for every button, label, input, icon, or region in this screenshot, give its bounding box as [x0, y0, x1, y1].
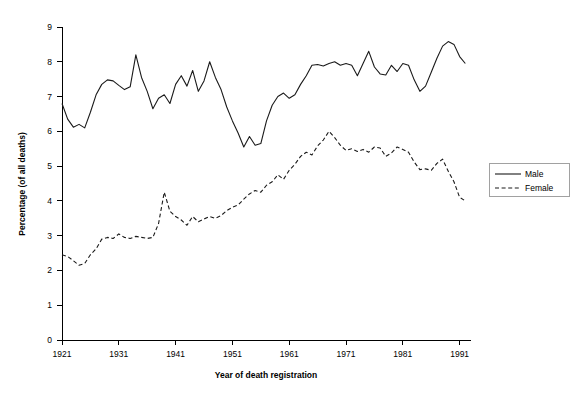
- x-tick-label: 1931: [109, 349, 128, 359]
- y-tick-collection: 0123456789: [47, 22, 62, 345]
- x-tick-label: 1921: [53, 349, 72, 359]
- y-tick-label: 7: [47, 92, 52, 102]
- y-tick-label: 2: [47, 265, 52, 275]
- y-tick-label: 4: [47, 196, 52, 206]
- y-tick-label: 3: [47, 231, 52, 241]
- data-series-group: [62, 42, 465, 266]
- y-tick-label: 8: [47, 57, 52, 67]
- x-tick-label: 1961: [280, 349, 299, 359]
- x-tick-label: 1971: [337, 349, 356, 359]
- x-axis-title: Year of death registration: [215, 370, 318, 380]
- y-tick-label: 9: [47, 22, 52, 32]
- x-tick-label: 1991: [450, 349, 469, 359]
- x-tick-label: 1981: [393, 349, 412, 359]
- x-tick-label: 1951: [223, 349, 242, 359]
- x-tick-collection: 19211931194119511961197119811991: [53, 340, 470, 359]
- series-line-male: [62, 42, 465, 147]
- y-tick-label: 1: [47, 300, 52, 310]
- y-tick-label: 0: [47, 335, 52, 345]
- legend-label-female: Female: [525, 183, 554, 193]
- chart-figure: 0123456789 Percentage (of all deaths) 19…: [0, 0, 574, 394]
- chart-legend: MaleFemale: [489, 163, 569, 196]
- series-line-female: [62, 131, 465, 265]
- x-axis-group: 19211931194119511961197119811991 Year of…: [53, 340, 471, 380]
- line-chart-plot: 0123456789 Percentage (of all deaths) 19…: [0, 0, 574, 394]
- x-tick-label: 1941: [166, 349, 185, 359]
- y-axis-title: Percentage (of all deaths): [17, 132, 27, 236]
- y-tick-label: 5: [47, 161, 52, 171]
- y-tick-label: 6: [47, 126, 52, 136]
- legend-label-male: Male: [525, 169, 544, 179]
- y-axis-group: 0123456789 Percentage (of all deaths): [17, 22, 62, 345]
